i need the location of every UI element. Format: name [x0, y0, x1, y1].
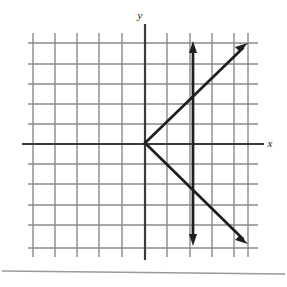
coordinate-plane-svg: y x [0, 0, 287, 287]
y-axis-label: y [137, 9, 143, 21]
graph-figure: y x [0, 0, 287, 287]
x-axis-label: x [267, 137, 273, 149]
